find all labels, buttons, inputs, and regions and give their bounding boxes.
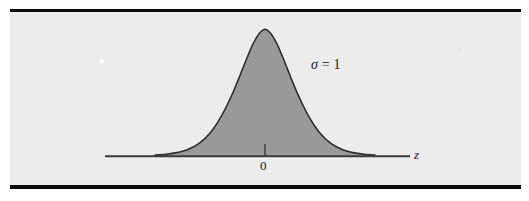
sigma-equals-sign: = bbox=[318, 57, 333, 72]
sigma-annotation: σ = 1 bbox=[311, 58, 341, 72]
normal-curve-figure: σ = 1 z 0 bbox=[0, 0, 529, 201]
sigma-value: 1 bbox=[333, 57, 341, 72]
z-axis-label: z bbox=[414, 148, 419, 161]
zero-tick-label: 0 bbox=[260, 159, 267, 172]
normal-curve-shaded-area bbox=[155, 29, 375, 156]
